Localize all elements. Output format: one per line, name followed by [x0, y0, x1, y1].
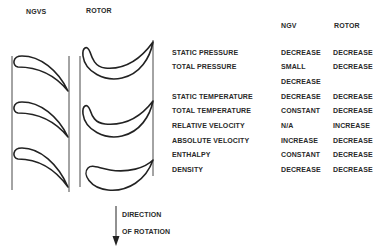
ngv-value: DECREASE: [281, 166, 321, 173]
arrow-down-icon: [113, 206, 120, 246]
ngv-value: CONSTANT: [281, 107, 320, 114]
rotor-value: DECREASE: [333, 49, 373, 56]
ngv-value: SMALL: [281, 63, 306, 70]
rotor-value: DECREASE: [333, 107, 373, 114]
rotor-value: DECREASE: [333, 137, 373, 144]
ngv-value: DECREASE: [281, 93, 321, 100]
ngv-column-header: NGV: [281, 22, 296, 29]
property-label: STATIC PRESSURE: [172, 49, 238, 56]
rotor-value: DECREASE: [333, 166, 373, 173]
property-label: ENTHALPY: [172, 151, 211, 158]
rotor-blade-icon: [83, 101, 153, 137]
property-label: TOTAL TEMPERATURE: [172, 107, 251, 114]
ngv-blade-icon: [14, 102, 68, 137]
property-label: TOTAL PRESSURE: [172, 63, 236, 70]
ngv-value: DECREASE: [281, 49, 321, 56]
rotor-value: DECREASE: [333, 63, 373, 70]
direction-label-line2: OF ROTATION: [122, 228, 170, 235]
ngv-value: INCREASE: [281, 137, 318, 144]
ngv-value: N/A: [281, 122, 293, 129]
property-label: DENSITY: [172, 166, 203, 173]
property-label: RELATIVE VELOCITY: [172, 122, 245, 129]
rotor-value: DECREASE: [333, 151, 373, 158]
rotor-value: DECREASE: [333, 93, 373, 100]
ngv-value-continued: DECREASE: [281, 78, 321, 85]
rotor-value: INCREASE: [333, 122, 370, 129]
ngv-blade-icon: [14, 148, 68, 187]
ngv-value: CONSTANT: [281, 151, 320, 158]
ngv-blade-icon: [14, 56, 68, 91]
property-label: ABSOLUTE VELOCITY: [172, 137, 249, 144]
direction-label-line1: DIRECTION: [122, 211, 161, 218]
rotor-blade-icon: [86, 160, 153, 190]
rotor-column-header: ROTOR: [334, 22, 360, 29]
rotor-blade-icon: [83, 42, 153, 79]
property-label: STATIC TEMPERATURE: [172, 93, 253, 100]
